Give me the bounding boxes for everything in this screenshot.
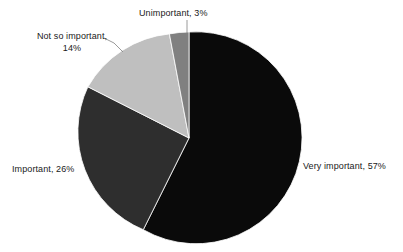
pie-chart-figure: Very important, 57% Important, 26% Not s… [0,0,403,252]
pie-label-unimportant: Unimportant, 3% [139,8,208,20]
pie-label-not-so-important-line1: Not so important, [37,31,107,41]
pie-label-not-so-important-line2: 14% [63,43,81,53]
pie-label-very-important: Very important, 57% [303,161,386,173]
pie-label-not-so-important: Not so important, 14% [31,31,113,54]
pie-label-important: Important, 26% [12,164,74,176]
